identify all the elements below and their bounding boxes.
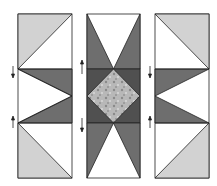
center-column <box>87 14 140 178</box>
arrow-up-icon <box>12 116 15 128</box>
arrow-down-icon <box>81 118 84 132</box>
right-column <box>155 14 209 178</box>
arrow-down-icon <box>149 66 152 78</box>
left-column <box>18 14 72 178</box>
quilt-diagram <box>0 0 217 186</box>
arrow-up-icon <box>149 116 152 128</box>
arrow-up-icon <box>81 60 84 74</box>
arrow-down-icon <box>12 66 15 78</box>
